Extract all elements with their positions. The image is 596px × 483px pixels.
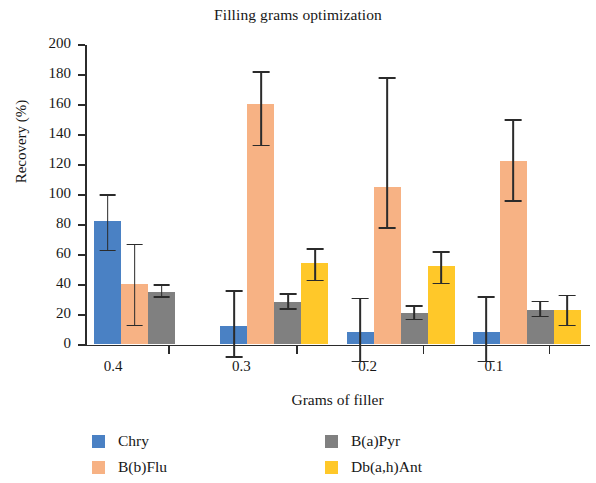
chart-figure: Filling grams optimization Recovery (%) … <box>0 0 596 483</box>
error-bar-cap-bottom <box>126 325 143 327</box>
error-bar-cap-bottom <box>280 308 297 310</box>
y-axis-tick: 0 <box>78 344 85 345</box>
legend-item: B(a)Pyr <box>325 428 540 454</box>
error-bar <box>287 294 289 309</box>
error-bar <box>314 249 316 281</box>
error-bar <box>134 245 136 326</box>
error-bar-cap-bottom <box>379 227 396 229</box>
y-axis-tick-label: 80 <box>56 214 71 233</box>
error-bar-cap-top <box>99 194 116 196</box>
legend-label: B(a)Pyr <box>351 432 400 450</box>
error-bar-cap-top <box>406 305 423 307</box>
x-axis-tick <box>549 345 550 354</box>
y-axis-tick-label: 120 <box>49 154 72 173</box>
error-bar <box>260 72 262 146</box>
error-bar-cap-top <box>505 119 522 121</box>
y-axis-tick: 120 <box>78 164 85 165</box>
error-bar <box>567 296 569 326</box>
error-bar-cap-top <box>280 293 297 295</box>
error-bar-cap-top <box>126 244 143 246</box>
legend-label: B(b)Flu <box>118 458 167 476</box>
error-bar-cap-top <box>559 295 576 297</box>
legend-item: Db(a,h)Ant <box>325 454 540 480</box>
legend-label: Db(a,h)Ant <box>351 458 422 476</box>
error-bar-cap-top <box>532 301 549 303</box>
y-axis-tick-label: 40 <box>56 274 71 293</box>
error-bar-cap-bottom <box>433 283 450 285</box>
error-bar-cap-top <box>433 251 450 253</box>
y-axis-tick: 40 <box>78 284 85 285</box>
y-axis-tick: 180 <box>78 74 85 75</box>
legend-swatch <box>92 461 105 474</box>
y-axis-tick-label: 60 <box>56 244 71 263</box>
y-axis-label: Recovery (%) <box>13 72 30 212</box>
error-bar-cap-top <box>153 284 170 286</box>
legend-label: Chry <box>118 432 149 450</box>
error-bar-cap-top <box>253 71 270 73</box>
legend-item: B(b)Flu <box>92 454 307 480</box>
y-axis-tick: 200 <box>78 44 85 45</box>
x-axis-tick-label: 0.3 <box>232 358 251 375</box>
y-axis-tick-label: 20 <box>56 304 71 323</box>
y-axis-tick: 80 <box>78 224 85 225</box>
error-bar-cap-bottom <box>406 319 423 321</box>
x-axis-tick <box>423 345 424 354</box>
error-bar <box>486 297 488 362</box>
error-bar-cap-bottom <box>153 296 170 298</box>
error-bar <box>386 78 388 228</box>
chart-legend: ChryB(a)PyrB(b)FluDb(a,h)Ant <box>92 428 562 480</box>
error-bar-cap-top <box>307 248 324 250</box>
error-bar-cap-bottom <box>559 325 576 327</box>
error-bar <box>359 299 361 362</box>
error-bar <box>233 291 235 357</box>
error-bar-cap-top <box>226 290 243 292</box>
y-axis-tick-label: 180 <box>49 64 72 83</box>
y-axis-tick: 60 <box>78 254 85 255</box>
error-bar-cap-bottom <box>532 316 549 318</box>
y-axis-tick-label: 160 <box>49 94 72 113</box>
error-bar <box>513 120 515 201</box>
error-bar-cap-bottom <box>505 200 522 202</box>
y-axis-tick: 20 <box>78 314 85 315</box>
x-axis-line <box>85 345 590 347</box>
bar <box>148 292 175 345</box>
y-axis-tick-label: 100 <box>49 184 72 203</box>
x-axis-tick <box>296 345 297 354</box>
error-bar-cap-top <box>352 298 369 300</box>
error-bar <box>413 306 415 320</box>
legend-swatch <box>92 435 105 448</box>
legend-swatch <box>325 461 338 474</box>
y-axis-tick: 140 <box>78 134 85 135</box>
x-axis-tick-label: 0.2 <box>358 358 377 375</box>
legend-item: Chry <box>92 428 307 454</box>
y-axis-tick: 160 <box>78 104 85 105</box>
x-axis-tick-label: 0.1 <box>485 358 504 375</box>
y-axis-tick: 100 <box>78 194 85 195</box>
legend-swatch <box>325 435 338 448</box>
x-axis-label: Grams of filler <box>85 391 590 409</box>
chart-title: Filling grams optimization <box>0 6 596 24</box>
error-bar-cap-top <box>478 296 495 298</box>
y-axis-tick-label: 140 <box>49 124 72 143</box>
y-axis-tick-label: 200 <box>49 34 72 53</box>
error-bar-cap-bottom <box>307 280 324 282</box>
y-axis-line <box>85 45 87 346</box>
error-bar-cap-bottom <box>253 145 270 147</box>
error-bar <box>540 302 542 317</box>
error-bar-cap-bottom <box>99 250 116 252</box>
error-bar <box>440 252 442 284</box>
error-bar <box>107 195 109 251</box>
x-axis-tick-label: 0.4 <box>104 358 123 375</box>
x-axis-tick <box>168 345 169 354</box>
plot-area: 0204060801001201401601802000.40.30.20.1 <box>85 45 590 345</box>
y-axis-tick-label: 0 <box>64 334 72 353</box>
error-bar-cap-top <box>379 77 396 79</box>
